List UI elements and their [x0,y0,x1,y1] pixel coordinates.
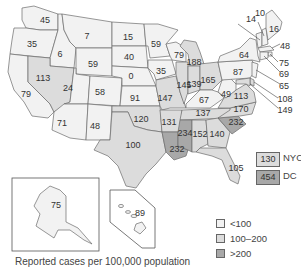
dc-label: DC [283,170,297,181]
state-ak [34,186,92,244]
label-or: 35 [27,39,37,49]
label-wy: 59 [88,59,98,69]
label-sc: 232 [228,117,243,127]
label-tn: 137 [195,108,210,118]
label-me: 16 [269,24,279,34]
label-ar: 131 [161,117,176,127]
legend-label-mid: 100–200 [230,233,267,244]
legend-swatch-high [216,249,225,258]
label-va: 113 [234,91,248,101]
label-la: 232 [169,144,184,154]
label-ma: 48 [280,41,290,51]
label-tx: 100 [125,140,140,150]
label-ut: 24 [63,83,73,93]
label-wa: 45 [40,15,50,25]
label-ks: 91 [130,93,140,103]
label-co: 58 [95,87,105,97]
label-pa: 87 [233,67,243,77]
label-ga: 140 [209,129,224,139]
label-mo: 147 [157,93,172,103]
legend-swatch-low [216,219,225,228]
nyc-value-box: 130 [256,152,280,167]
state-hi [134,222,146,234]
legend-item-mid: 100–200 [216,233,267,244]
label-nd: 15 [123,32,133,42]
label-ne: 0 [128,71,133,81]
label-mn: 59 [151,39,161,49]
label-md: 149 [277,105,292,115]
label-id: 6 [57,49,62,59]
legend-label-high: >200 [230,248,251,259]
map-caption: Reported cases per 100,000 population [15,256,190,267]
label-sd: 40 [124,52,134,62]
nyc-label: NYC [283,152,301,163]
dc-value-box: 454 [256,170,280,185]
legend-item-high: >200 [216,248,251,259]
legend-item-low: <100 [216,218,251,229]
label-in: 139 [186,79,201,89]
label-nv: 113 [36,73,50,83]
label-nj: 65 [279,81,289,91]
label-nh: 10 [255,8,265,18]
label-nm: 48 [90,121,100,131]
legend-label-low: <100 [230,218,251,229]
label-ok: 120 [133,114,148,124]
label-ny: 64 [239,50,249,60]
label-ak: 75 [51,200,61,210]
label-mi: 188 [186,57,201,67]
us-choropleth-map: 45 35 79 6 113 7 59 24 58 71 48 15 40 0 … [0,0,301,272]
label-wi: 79 [174,50,184,60]
legend-swatch-mid [216,234,225,243]
label-oh: 165 [200,75,215,85]
label-al: 152 [192,129,207,139]
label-ms: 234 [177,128,192,138]
label-ia: 35 [156,66,166,76]
label-ky: 67 [199,95,209,105]
state-hi-island [126,211,131,214]
label-hi: 89 [135,208,145,218]
label-mt: 7 [84,31,89,41]
label-ct: 69 [279,69,289,79]
label-az: 71 [57,118,67,128]
hawaii-inset-frame [110,190,155,248]
label-nc: 170 [233,104,248,114]
label-wv: 49 [221,89,231,99]
label-ri: 75 [279,58,289,68]
label-ca: 79 [21,89,31,99]
state-hi-island [119,204,124,207]
state-nj [252,62,258,78]
label-fl: 105 [228,163,243,173]
label-de: 108 [277,94,292,104]
